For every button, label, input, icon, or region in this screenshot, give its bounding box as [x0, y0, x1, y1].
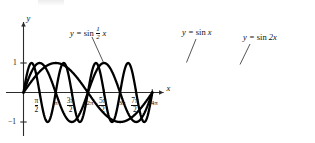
x-tick-label-1: π — [54, 100, 58, 107]
x-tick-label-7: 4π — [151, 100, 158, 107]
curve-label-sin-2x: y = sin 2x — [243, 33, 277, 42]
leader-line-sin-x — [187, 39, 197, 63]
y-tick-label-one: 1 — [13, 59, 17, 67]
plot-canvas — [0, 0, 315, 143]
x-tick-label-6: 7π2 — [131, 97, 139, 113]
x-tick-label-2: 3π2 — [67, 97, 75, 113]
x-tick-label-3: 2π — [86, 100, 93, 107]
x-axis-label: x — [167, 84, 171, 93]
curve-label-sin-x: y = sin x — [182, 28, 212, 37]
y-axis-arrowhead — [21, 22, 26, 27]
x-axis-arrowhead — [159, 90, 164, 95]
y-tick-label-minus-one: −1 — [8, 118, 16, 126]
curve-label-sin-half-x: y = sin 12 x — [70, 26, 106, 41]
y-axis-label: y — [27, 14, 31, 23]
x-tick-label-4: 5π2 — [99, 97, 107, 113]
x-tick-label-0: π2 — [35, 97, 39, 113]
sine-curves-figure: y x 1−1 π2π3π22π5π23π7π24π y = sin 12 xy… — [0, 0, 315, 143]
leader-line-sin-2x — [240, 44, 250, 65]
leader-lines-layer — [92, 37, 250, 65]
x-tick-label-5: 3π — [119, 100, 126, 107]
